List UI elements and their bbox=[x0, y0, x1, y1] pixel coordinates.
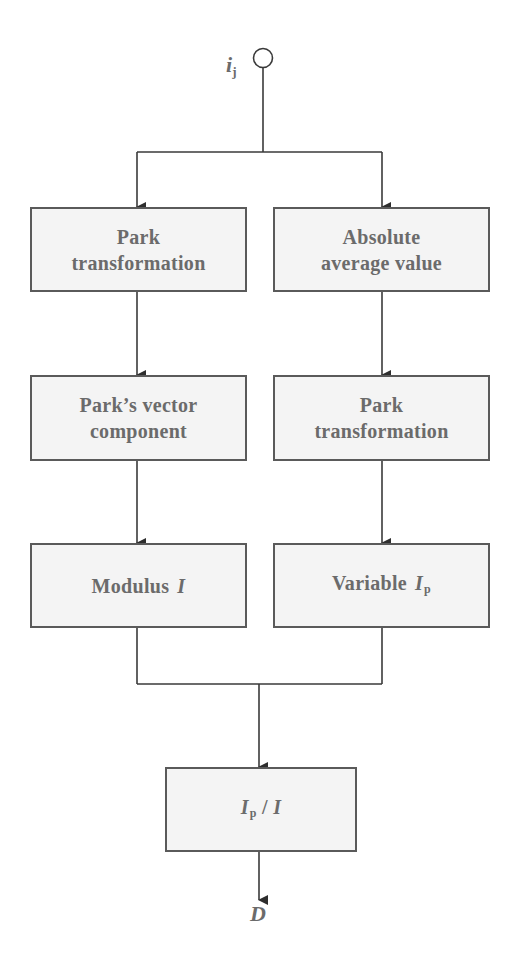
box-label-line-2: component bbox=[90, 418, 187, 444]
variable-ip-box: VariableIp bbox=[273, 543, 490, 628]
park-transformation-2-box: Park transformation bbox=[273, 375, 490, 461]
ratio-numerator-subscript: p bbox=[250, 806, 257, 820]
modulus-symbol: I bbox=[177, 575, 185, 597]
box-label-line-2: transformation bbox=[314, 418, 448, 444]
box-label-line-1: Absolute bbox=[343, 224, 421, 250]
ratio-box: Ip / I bbox=[165, 767, 357, 852]
output-label: D bbox=[250, 901, 266, 927]
ratio-numerator-symbol: I bbox=[241, 796, 249, 818]
box-label-line-1: Park bbox=[117, 224, 160, 250]
box-label-line-2: transformation bbox=[71, 250, 205, 276]
ratio-operator: / bbox=[257, 796, 273, 818]
box-label: ModulusI bbox=[92, 573, 186, 599]
input-subscript: j bbox=[232, 64, 236, 79]
modulus-box: ModulusI bbox=[30, 543, 247, 628]
ratio-denominator-symbol: I bbox=[273, 796, 281, 818]
output-symbol: D bbox=[250, 901, 266, 926]
input-terminal-icon bbox=[254, 49, 273, 68]
box-label-line-1: Park’s vector bbox=[79, 392, 197, 418]
variable-text: Variable bbox=[332, 572, 407, 594]
box-label-line-1: Park bbox=[360, 392, 403, 418]
variable-subscript: p bbox=[424, 582, 431, 596]
modulus-text: Modulus bbox=[92, 575, 170, 597]
input-label: ij bbox=[226, 52, 236, 80]
flowchart-canvas: ij Park transformation Park’s vector com… bbox=[0, 0, 517, 964]
parks-vector-component-box: Park’s vector component bbox=[30, 375, 247, 461]
absolute-average-value-box: Absolute average value bbox=[273, 207, 490, 292]
park-transformation-box: Park transformation bbox=[30, 207, 247, 292]
variable-symbol: I bbox=[415, 572, 423, 594]
ratio-label: Ip / I bbox=[241, 794, 282, 826]
box-label-line-2: average value bbox=[321, 250, 442, 276]
box-label: VariableIp bbox=[332, 570, 431, 602]
